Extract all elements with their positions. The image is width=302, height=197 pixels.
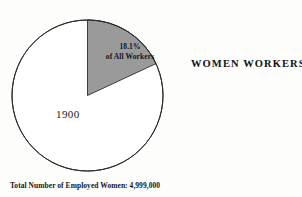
year-label: 1900 <box>56 108 80 120</box>
chart-title: WOMEN WORKERS <box>191 58 302 69</box>
chart-page: 18.1% of All Workers 1900 WOMEN WORKERS … <box>0 0 302 197</box>
pie-chart-figure <box>11 19 164 172</box>
pie-chart-svg <box>11 19 164 172</box>
chart-footnote: Total Number of Employed Women: 4,999,00… <box>10 181 160 190</box>
